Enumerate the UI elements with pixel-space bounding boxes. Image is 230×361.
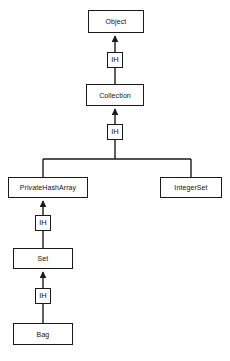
ih-marker-label: IH — [39, 219, 47, 227]
ih-marker-label: IH — [111, 56, 119, 64]
class-node-privatehasharray[interactable]: PrivateHashArray — [8, 177, 88, 198]
ih-marker-label: IH — [111, 128, 119, 136]
class-diagram-canvas: Object Collection PrivateHashArray Integ… — [0, 0, 230, 361]
class-node-bag[interactable]: Bag — [13, 323, 73, 345]
ih-marker-privatehasharray-set[interactable]: IH — [35, 215, 51, 231]
class-node-object[interactable]: Object — [88, 10, 144, 33]
class-node-label: IntegerSet — [174, 184, 207, 191]
class-node-label: Collection — [99, 92, 131, 99]
class-node-collection[interactable]: Collection — [86, 84, 144, 106]
ih-marker-object-collection[interactable]: IH — [107, 52, 123, 68]
class-node-label: PrivateHashArray — [20, 184, 76, 191]
class-node-label: Set — [38, 255, 49, 262]
ih-marker-collection-branch[interactable]: IH — [107, 124, 123, 140]
class-node-set[interactable]: Set — [13, 248, 73, 269]
class-node-label: Object — [106, 18, 127, 25]
class-node-label: Bag — [37, 331, 50, 338]
class-node-integerset[interactable]: IntegerSet — [160, 177, 222, 198]
ih-marker-label: IH — [39, 292, 47, 300]
ih-marker-set-bag[interactable]: IH — [35, 288, 51, 304]
branch-bus — [43, 159, 191, 177]
